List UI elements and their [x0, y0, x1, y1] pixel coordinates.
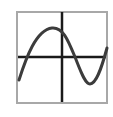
graph-svg [0, 0, 113, 117]
sine-wave-graph-icon [0, 0, 113, 117]
